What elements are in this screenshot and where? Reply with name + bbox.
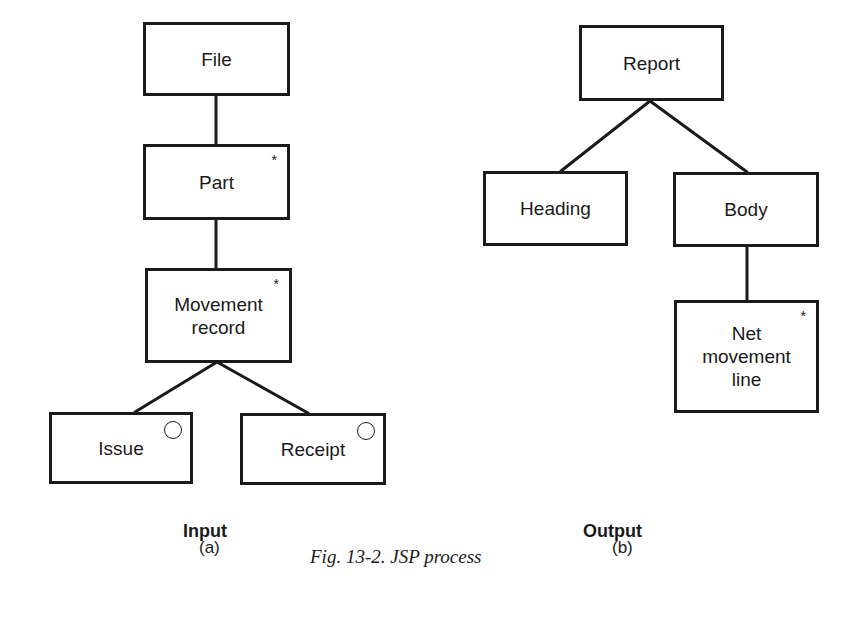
node-label: Heading <box>520 197 591 220</box>
node-label: Issue <box>98 437 143 460</box>
iteration-star-icon: * <box>274 277 279 291</box>
node-movement-record: Movement record * <box>145 268 292 363</box>
selection-circle-icon <box>164 421 182 439</box>
node-report: Report <box>579 25 724 101</box>
node-label: Body <box>724 198 767 221</box>
node-heading: Heading <box>483 171 628 246</box>
output-sublabel: (b) <box>612 538 633 558</box>
node-label: Receipt <box>281 438 345 461</box>
selection-circle-icon <box>357 422 375 440</box>
node-label: Net movement line <box>702 322 791 391</box>
iteration-star-icon: * <box>272 153 277 167</box>
node-part: Part * <box>143 144 290 220</box>
edge-report-heading <box>561 101 650 171</box>
iteration-star-icon: * <box>801 309 806 323</box>
node-label: Part <box>199 171 234 194</box>
node-label: Report <box>623 52 680 75</box>
node-file: File <box>143 22 290 96</box>
node-label: Movement record <box>174 293 263 339</box>
node-label: File <box>201 48 232 71</box>
figure-caption: Fig. 13-2. JSP process <box>310 546 482 568</box>
edge-movement-record-issue <box>135 362 217 412</box>
node-net-movement-line: Net movement line * <box>674 300 819 413</box>
edge-movement-record-receipt <box>217 362 308 413</box>
node-body: Body <box>673 172 819 247</box>
edge-report-body <box>650 101 747 172</box>
node-receipt: Receipt <box>240 413 386 485</box>
input-sublabel: (a) <box>199 538 220 558</box>
node-issue: Issue <box>49 412 193 484</box>
